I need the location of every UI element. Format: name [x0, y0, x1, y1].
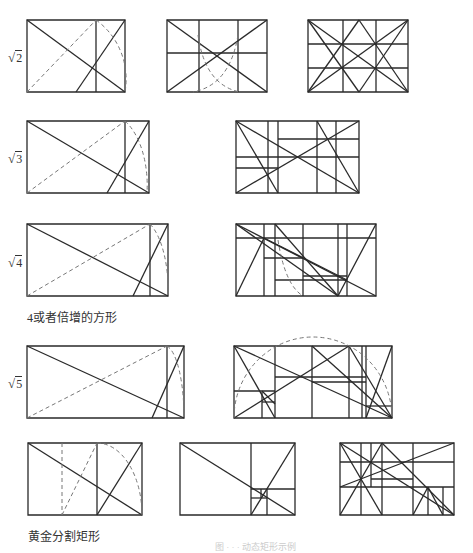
root3-rect-1 [27, 121, 149, 193]
root2-rect-3 [308, 20, 408, 92]
root4-rect-2 [236, 224, 376, 296]
root3-label: √3 [8, 151, 22, 167]
root5-rect-1 [27, 346, 184, 418]
golden-rect-1 [28, 443, 142, 515]
golden-rect-3 [340, 443, 454, 515]
golden-rectangle-caption: 黄金分割矩形 [28, 527, 100, 545]
root5-label: √5 [8, 376, 22, 392]
root4-label: √4 [8, 255, 22, 271]
root2-rect-1 [27, 20, 126, 92]
root4-caption: 4或者倍增的方形 [27, 308, 117, 326]
root4-rect-1 [27, 224, 168, 296]
root3-rect-2 [236, 121, 359, 193]
root5-rect-2 [234, 337, 392, 418]
figure-caption-faint: 图 · · · 动态矩形示例 [215, 540, 296, 553]
root2-rect-2 [167, 20, 267, 92]
root2-label: √2 [8, 50, 22, 66]
golden-rect-2 [180, 443, 295, 515]
